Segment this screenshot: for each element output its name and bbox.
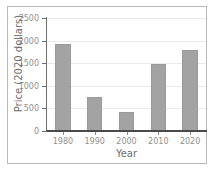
bar-1980 [55, 44, 70, 131]
gridline-2000 [47, 41, 206, 42]
x-axis-title: Year [47, 148, 206, 159]
x-tick-label-2010: 2010 [141, 137, 175, 146]
x-tick-mark-2010 [158, 132, 159, 135]
bar-2020 [182, 50, 197, 131]
y-tick-mark-500 [42, 108, 47, 109]
y-tick-mark-1500 [42, 63, 47, 64]
plot-area [47, 18, 206, 131]
x-tick-mark-2020 [190, 132, 191, 135]
x-tick-mark-2000 [127, 132, 128, 135]
y-axis-title: Price (2020 dollars) [13, 0, 24, 129]
x-tick-mark-1980 [63, 132, 64, 135]
bar-1990 [87, 97, 102, 131]
x-tick-label-2000: 2000 [110, 137, 144, 146]
y-tick-mark-0 [42, 131, 47, 132]
y-tick-mark-1000 [42, 86, 47, 87]
y-axis-line [46, 17, 47, 132]
x-tick-label-1990: 1990 [78, 137, 112, 146]
bar-2010 [151, 64, 166, 131]
x-tick-label-2020: 2020 [173, 137, 207, 146]
x-tick-mark-1990 [95, 132, 96, 135]
x-tick-label-1980: 1980 [46, 137, 80, 146]
chart-figure: 2500 2000 1500 1000 500 0 1980 1990 2000… [0, 0, 214, 170]
y-tick-mark-2500 [42, 18, 47, 19]
y-tick-mark-2000 [42, 41, 47, 42]
bar-2000 [119, 112, 134, 131]
gridline-2500 [47, 18, 206, 19]
